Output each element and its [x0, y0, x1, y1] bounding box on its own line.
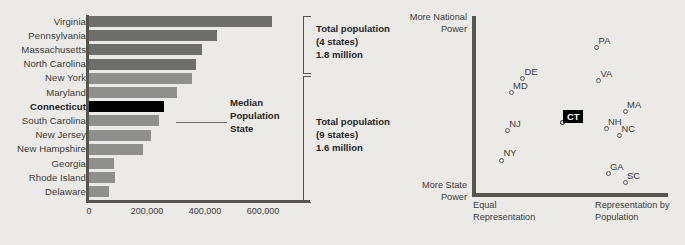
- scatter-point-md: [509, 90, 514, 95]
- bar-fill: [89, 172, 115, 183]
- bar-row: Connecticut: [0, 101, 340, 112]
- bar-chart-x-axis: [86, 200, 310, 203]
- bar-fill: [89, 130, 151, 141]
- x-tick-label: 400,000: [189, 206, 222, 216]
- bar-row-label: Connecticut: [30, 102, 86, 112]
- bar-fill: [89, 115, 159, 126]
- cap-top-line1: More National: [410, 12, 467, 24]
- bar-row-label: Pennsylvania: [28, 31, 86, 41]
- scatter-point-label-ga: GA: [610, 162, 624, 171]
- bar-track: [89, 30, 217, 41]
- scatter-point-label-pa: PA: [599, 36, 611, 45]
- cap-bot-line1: More State: [422, 180, 467, 192]
- cap-left-line1: Equal: [473, 200, 535, 212]
- scatter-x-axis: [472, 193, 668, 197]
- bar-track: [89, 73, 192, 84]
- x-tick-label: 0: [86, 206, 91, 216]
- bar-fill: [89, 186, 109, 197]
- bar-fill: [89, 16, 272, 27]
- scatter-point-label-md: MD: [513, 81, 528, 90]
- bracket-top-four: [303, 16, 311, 74]
- bar-track: [89, 59, 196, 70]
- bracket-top-line3: 1.8 million: [316, 48, 390, 61]
- scatter-point-label-va: VA: [601, 69, 613, 78]
- scatter-point-ma: [623, 109, 628, 114]
- bar-row: Delaware: [0, 186, 340, 197]
- scatter-point-nj: [505, 128, 510, 133]
- bar-row-label: Massachusetts: [21, 45, 86, 55]
- bracket-top-line1: Total population: [316, 22, 390, 35]
- scatter-point-ny: [499, 158, 504, 163]
- median-leader-line: [176, 122, 227, 123]
- bar-row-label: Rhode Island: [29, 173, 86, 183]
- scatter-point-label-de: DE: [525, 67, 538, 76]
- bar-fill: [89, 101, 164, 112]
- scatter-point-label-ma: MA: [627, 100, 641, 109]
- figure-canvas: VirginiaPennsylvaniaMassachusettsNorth C…: [0, 0, 685, 245]
- scatter-point-label-ny: NY: [504, 148, 517, 157]
- bar-row-label: Delaware: [45, 187, 86, 197]
- bar-fill: [89, 158, 114, 169]
- bar-row: Virginia: [0, 16, 340, 27]
- scatter-point-nc: [617, 133, 622, 138]
- scatter-point-label-ct: CT: [563, 110, 583, 123]
- bracket-bottom-nine: [303, 76, 311, 203]
- bar-track: [89, 16, 272, 27]
- bar-row-label: New York: [45, 74, 86, 84]
- bar-row-label: South Carolina: [22, 116, 86, 126]
- cap-top-line2: Power: [410, 24, 467, 36]
- x-tick-label: 600,000: [247, 206, 280, 216]
- median-note-line1: Median: [230, 96, 280, 109]
- bar-row-label: New Jersey: [35, 130, 86, 140]
- median-note-line3: State: [230, 122, 280, 135]
- bar-track: [89, 130, 151, 141]
- cap-bot-line2: Power: [422, 192, 467, 204]
- bar-fill: [89, 144, 143, 155]
- bar-row-label: New Hampshire: [17, 145, 86, 155]
- bar-track: [89, 87, 177, 98]
- scatter-point-sc: [623, 180, 628, 185]
- scatter-point-pa: [594, 45, 599, 50]
- bar-row: New Jersey: [0, 130, 340, 141]
- bar-fill: [89, 87, 177, 98]
- bar-row-label: North Carolina: [23, 59, 86, 69]
- scatter-axis-label-left: Equal Representation: [473, 200, 535, 223]
- bar-row: Pennsylvania: [0, 30, 340, 41]
- bracket-bottom-nine-label: Total population (9 states) 1.6 million: [316, 115, 390, 154]
- bar-row: South Carolina: [0, 115, 340, 126]
- bar-row: North Carolina: [0, 59, 340, 70]
- bar-fill: [89, 59, 196, 70]
- median-note-line2: Population: [230, 109, 280, 122]
- scatter-point-label-sc: SC: [627, 171, 640, 180]
- bar-row: New York: [0, 73, 340, 84]
- scatter-point-ga: [606, 171, 611, 176]
- bar-row-label: Georgia: [52, 159, 86, 169]
- scatter-point-label-nc: NC: [621, 124, 635, 133]
- scatter-point-label-nj: NJ: [509, 119, 520, 128]
- bar-track: [89, 144, 143, 155]
- cap-right-line1: Representation by: [595, 200, 670, 212]
- representation-scatter-plot: More National Power More State Power Equ…: [415, 0, 685, 245]
- bar-fill: [89, 73, 192, 84]
- cap-left-line2: Representation: [473, 212, 535, 224]
- median-population-annotation: Median Population State: [230, 96, 280, 135]
- population-bar-chart: VirginiaPennsylvaniaMassachusettsNorth C…: [0, 0, 340, 245]
- bar-track: [89, 115, 159, 126]
- bar-track: [89, 158, 114, 169]
- cap-right-line2: Population: [595, 212, 670, 224]
- bar-fill: [89, 30, 217, 41]
- scatter-point-label-nh: NH: [608, 117, 622, 126]
- bracket-bot-line2: (9 states): [316, 128, 390, 141]
- bar-track: [89, 44, 202, 55]
- bar-row: New Hampshire: [0, 144, 340, 155]
- scatter-axis-label-top: More National Power: [410, 12, 467, 35]
- bracket-top-line2: (4 states): [316, 35, 390, 48]
- bracket-top-four-label: Total population (4 states) 1.8 million: [316, 22, 390, 61]
- bar-track: [89, 186, 109, 197]
- bar-row: Georgia: [0, 158, 340, 169]
- bar-row: Rhode Island: [0, 172, 340, 183]
- bar-row: Massachusetts: [0, 44, 340, 55]
- bar-track: [89, 172, 115, 183]
- x-tick-label: 200,000: [131, 206, 164, 216]
- bracket-bot-line3: 1.6 million: [316, 141, 390, 154]
